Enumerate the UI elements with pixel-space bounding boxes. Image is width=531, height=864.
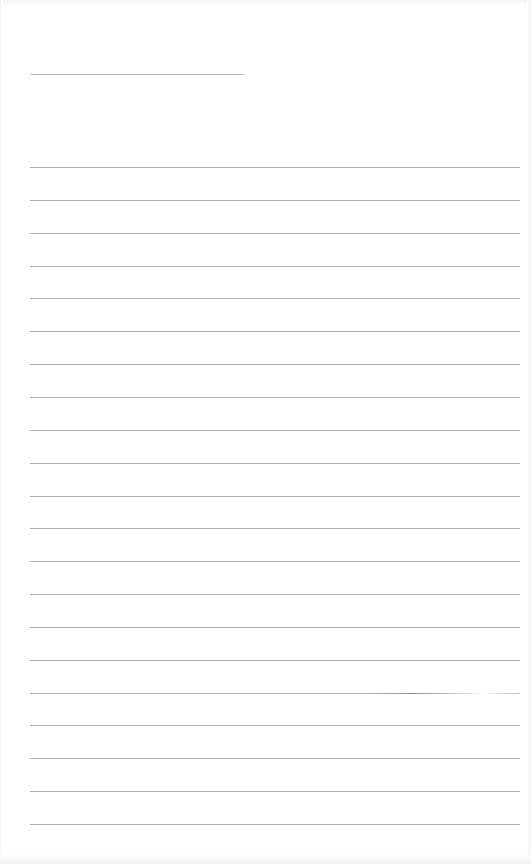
ruled-line xyxy=(30,693,520,694)
ruled-line xyxy=(30,824,520,825)
ruled-line xyxy=(30,561,520,562)
ruled-line xyxy=(30,627,520,628)
ruled-line xyxy=(30,298,520,299)
ruled-line xyxy=(30,331,520,332)
page-right-edge xyxy=(527,0,531,864)
ruled-line xyxy=(30,364,520,365)
ruled-line xyxy=(30,200,520,201)
ruled-line xyxy=(30,528,520,529)
ruled-line xyxy=(30,266,520,267)
ruled-line xyxy=(30,660,520,661)
ruled-line xyxy=(30,758,520,759)
ruled-line xyxy=(30,496,520,497)
ruled-line xyxy=(30,725,520,726)
ruled-line xyxy=(30,233,520,234)
ruled-line xyxy=(30,430,520,431)
page-left-edge xyxy=(0,0,3,864)
page-bottom-edge xyxy=(0,854,531,864)
ruled-line xyxy=(30,463,520,464)
page-top-edge xyxy=(0,0,531,6)
ruled-line xyxy=(30,167,520,168)
ruled-line xyxy=(30,791,520,792)
ruled-line xyxy=(30,397,520,398)
header-underline xyxy=(31,74,244,75)
ruled-line xyxy=(30,594,520,595)
